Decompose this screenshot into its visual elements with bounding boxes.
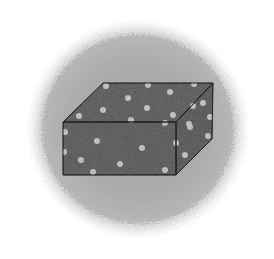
box-dot	[76, 113, 82, 119]
box-dot	[144, 105, 150, 111]
box-dot	[182, 152, 188, 158]
dotted-box-illustration	[0, 0, 274, 259]
box-front-face	[63, 122, 176, 175]
box-dot	[205, 133, 211, 139]
box-dot	[103, 83, 109, 89]
box-dot	[139, 145, 145, 151]
box-dot	[187, 124, 193, 130]
box-dot	[167, 89, 173, 95]
box-dot	[100, 107, 106, 113]
box-dot	[94, 138, 100, 144]
box-dot	[162, 167, 168, 173]
box-dot	[117, 161, 123, 167]
box-dot	[78, 157, 84, 163]
box-dot	[162, 120, 168, 126]
box-dot	[125, 95, 131, 101]
box-dot	[170, 112, 176, 118]
box-dot	[200, 100, 206, 106]
box-dot	[90, 169, 96, 175]
